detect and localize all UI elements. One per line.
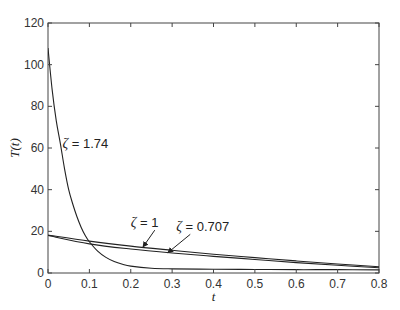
y-tick-label: 80 [31,99,45,113]
x-tick-label: 0.7 [329,277,346,291]
label-zeta-0-707: ζ = 0.707 [176,219,229,234]
x-tick-label: 0.6 [288,277,305,291]
x-tick-label: 0 [45,277,52,291]
y-tick-label: 100 [24,58,44,72]
x-tick-label: 0.2 [122,277,139,291]
y-tick-label: 120 [24,16,44,30]
chart: 00.10.20.30.40.50.60.70.8020406080100120… [0,0,400,310]
y-tick-label: 20 [31,224,45,238]
label-zeta-1-74: ζ = 1.74 [62,136,108,151]
x-tick-label: 0.8 [371,277,388,291]
y-axis-label: T(t) [7,138,22,158]
y-tick-label: 0 [37,266,44,280]
x-axis-label: t [212,289,216,304]
x-tick-label: 0.3 [164,277,181,291]
x-tick-label: 0.1 [81,277,98,291]
x-tick-label: 0.5 [247,277,264,291]
y-tick-label: 40 [31,183,45,197]
label-zeta-1: ζ = 1 [131,215,159,230]
y-tick-label: 60 [31,141,45,155]
